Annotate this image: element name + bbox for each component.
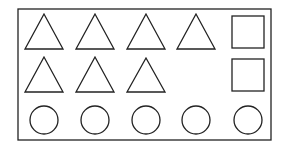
- triangle-shape: [25, 57, 63, 92]
- triangle-shape: [76, 14, 114, 49]
- triangle-shape: [76, 57, 114, 92]
- circle-shape: [234, 106, 262, 134]
- circle-shape: [30, 106, 58, 134]
- triangle-shape: [127, 58, 165, 92]
- circle-shape: [132, 106, 160, 134]
- squares-group: [232, 16, 264, 91]
- square-shape: [232, 16, 264, 48]
- triangles-group: [25, 14, 215, 92]
- outer-frame: [18, 9, 271, 140]
- triangle-shape: [177, 14, 215, 49]
- triangle-shape: [25, 14, 63, 49]
- circles-group: [30, 106, 262, 134]
- shapes-diagram: [0, 0, 281, 149]
- triangle-shape: [127, 14, 165, 49]
- circle-shape: [182, 106, 210, 134]
- square-shape: [232, 59, 264, 91]
- circle-shape: [81, 106, 109, 134]
